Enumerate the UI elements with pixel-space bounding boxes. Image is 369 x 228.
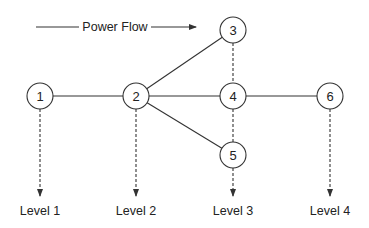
level-label-4: Level 4	[310, 204, 350, 218]
edges	[53, 37, 317, 148]
level-label-3: Level 3	[213, 204, 253, 218]
edge-2-5	[147, 103, 222, 148]
bus-node-2: 2	[123, 83, 149, 109]
node-label: 1	[36, 89, 43, 104]
nodes: 123456	[27, 17, 343, 168]
node-label: 4	[229, 89, 236, 104]
power-flow-arrow: Power Flow	[36, 20, 196, 34]
node-label: 3	[229, 23, 236, 38]
bus-node-6: 6	[317, 83, 343, 109]
bus-node-5: 5	[220, 142, 246, 168]
power-flow-diagram: Power Flow Level 1Level 2Level 3Level 4 …	[0, 0, 369, 228]
node-label: 2	[132, 89, 139, 104]
bus-node-3: 3	[220, 17, 246, 43]
edge-2-3	[147, 37, 223, 88]
level-label-1: Level 1	[20, 204, 60, 218]
power-flow-label: Power Flow	[82, 20, 148, 34]
node-label: 5	[229, 148, 236, 163]
level-label-2: Level 2	[116, 204, 156, 218]
bus-node-1: 1	[27, 83, 53, 109]
bus-node-4: 4	[220, 83, 246, 109]
node-label: 6	[326, 89, 333, 104]
